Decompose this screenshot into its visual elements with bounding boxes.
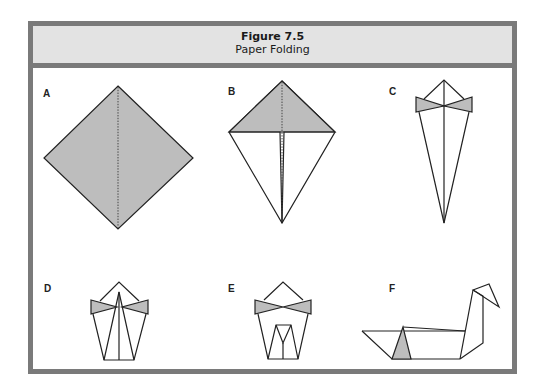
- panel-c: C: [389, 80, 472, 223]
- shaded-tail-triangle: [392, 327, 411, 359]
- hull-bottom: [362, 331, 460, 359]
- bowtie-right-shape: [122, 300, 148, 314]
- panel-e: E: [228, 282, 311, 359]
- bowtie-right-shape: [283, 300, 311, 314]
- bowtie-right-shape: [444, 97, 472, 112]
- roof-edges: [264, 282, 303, 300]
- bowtie-left-shape: [416, 97, 444, 112]
- panel-label-c: C: [389, 86, 396, 97]
- folding-diagram: A B C D E: [0, 0, 539, 390]
- panel-label-e: E: [228, 283, 235, 294]
- neck-front: [460, 290, 473, 359]
- bowtie-left-shape: [255, 300, 283, 314]
- panel-b: B: [228, 81, 335, 223]
- panel-label-b: B: [228, 86, 235, 97]
- panel-label-a: A: [43, 88, 50, 99]
- panel-d: D: [44, 282, 148, 360]
- swan-head-shape: [473, 284, 499, 307]
- inner-v-fold: [276, 325, 291, 343]
- panel-label-d: D: [44, 283, 51, 294]
- panel-label-f: F: [389, 283, 395, 294]
- panel-a: A: [43, 86, 193, 229]
- bowtie-left-shape: [91, 300, 117, 314]
- panel-f: F: [362, 283, 499, 359]
